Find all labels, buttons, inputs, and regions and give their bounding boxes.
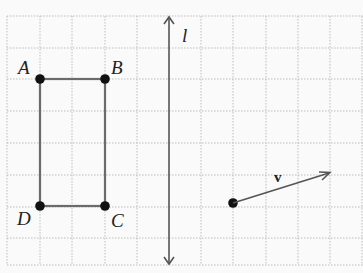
label-line-l: l xyxy=(182,26,187,45)
grid xyxy=(7,16,363,265)
label-vector-v: v xyxy=(274,170,282,185)
label-b: B xyxy=(111,58,123,77)
label-a: A xyxy=(18,58,30,77)
point-b xyxy=(100,74,110,84)
point-c xyxy=(100,201,110,211)
line-l xyxy=(164,17,174,264)
point-a xyxy=(35,74,45,84)
label-d: D xyxy=(17,209,31,228)
label-c: C xyxy=(111,211,124,230)
point-d xyxy=(35,201,45,211)
